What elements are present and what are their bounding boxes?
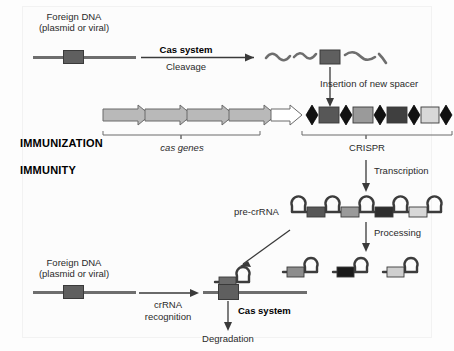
spacer-3 (387, 107, 407, 123)
bottom-cas-system-label: Cas system (238, 305, 291, 316)
pre-spacer-2 (341, 207, 359, 217)
target-dna-line-right (239, 291, 307, 294)
processing-label: Processing (374, 227, 421, 238)
crrna-recognition-label-line2: recognition (145, 311, 191, 322)
repeat-5 (440, 105, 452, 125)
repeat-3 (374, 105, 386, 125)
crispr-pathway-figure: Foreign DNA (plasmid or viral) Cas syste… (0, 0, 454, 351)
crispr-bracket (302, 131, 452, 139)
repeat-1 (306, 105, 318, 125)
bottom-dna-line-right (84, 291, 136, 294)
cleavage-arrow (141, 54, 254, 62)
crrna-to-target-arrow (240, 230, 290, 267)
pre-spacer-4 (409, 207, 427, 217)
crrna-3 (383, 258, 418, 277)
cas-gene-arrows (103, 105, 302, 125)
spacer-new (319, 107, 339, 123)
bottom-foreign-dna-label-line1: Foreign DNA (47, 257, 102, 268)
processing-arrow (362, 222, 370, 252)
mature-crrnas (283, 258, 418, 277)
insertion-of-new-spacer-label: Insertion of new spacer (320, 78, 418, 89)
cas-genes-bracket (103, 131, 260, 139)
transcription-arrow (362, 160, 370, 192)
bottom-foreign-dna-label-line2: (plasmid or viral) (39, 268, 109, 279)
spacer-4 (421, 107, 439, 123)
repeat-2 (340, 105, 352, 125)
pre-spacer-1 (307, 207, 325, 217)
immunization-stage-label: IMMUNIZATION (20, 138, 103, 149)
target-protospacer-block (218, 284, 239, 300)
repeat-4 (408, 105, 420, 125)
crrna-recognition-label-line1: crRNA (154, 299, 182, 310)
crispr-array (306, 105, 452, 125)
crrna-recognition-arrow (139, 289, 199, 297)
excised-protospacer-block (320, 50, 340, 64)
crrna-1 (283, 258, 318, 277)
degradation-label: Degradation (202, 333, 254, 344)
crispr-bracket-label: CRISPR (349, 142, 385, 153)
pre-spacer-3 (375, 207, 393, 217)
cas-genes-bracket-label: cas genes (160, 142, 203, 153)
degradation-arrow (224, 301, 232, 331)
crrna-2 (333, 258, 368, 277)
spacer-2 (353, 107, 373, 123)
pre-crrna-label: pre-crRNA (234, 206, 279, 217)
immunity-stage-label: IMMUNITY (20, 165, 76, 176)
bottom-protospacer-block (63, 285, 84, 299)
transcription-label: Transcription (374, 165, 429, 176)
pre-crrna-molecule (292, 196, 442, 217)
